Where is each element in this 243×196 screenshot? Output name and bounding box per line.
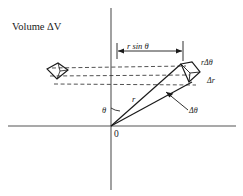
label-radius: r [132,95,135,104]
label-origin: 0 [114,130,119,140]
dimension-arrowhead-left [118,49,124,54]
figure-title: Volume ΔV [12,22,61,33]
dimension-arrowhead-right [176,49,182,54]
dashed-line-top [52,66,186,68]
theta-angle-arc [111,108,120,111]
label-arc-length: rΔθ [201,59,213,67]
label-radial-thickness: Δr [207,77,215,85]
label-polar-angle: θ [102,106,106,115]
wedge-ray-lower [111,82,192,126]
label-angle-increment: Δθ [189,107,198,115]
volume-element-diagram: Volume ΔV r sin θ rΔθ Δr Δθ r θ 0 [0,0,243,196]
dashed-line-bottom [54,84,196,85]
label-horizontal-extent: r sin θ [127,42,149,51]
